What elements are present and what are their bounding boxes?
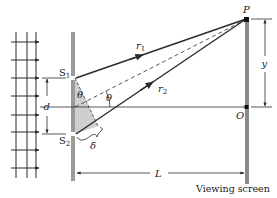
slit-s2-label: S2 [59, 135, 70, 148]
theta-slit-label: θ [77, 89, 83, 100]
rays [76, 19, 246, 134]
ray-r2 [76, 19, 246, 134]
barrier-middle [71, 80, 75, 132]
viewing-screen-caption: Viewing screen [195, 183, 270, 194]
path-difference-label: δ [90, 140, 96, 151]
incident-wavefronts [11, 32, 39, 178]
point-p-label: P [242, 4, 250, 15]
ray-r2-label: r2 [158, 83, 167, 96]
distance-label: L [154, 168, 162, 179]
ray-r1 [76, 19, 246, 78]
slit-s2-subscript: 2 [66, 140, 70, 148]
slit-s1-subscript: 1 [66, 72, 70, 80]
barrier-bottom [71, 136, 75, 181]
double-slit-diagram: d y L S1 S2 r1 r2 θ θ δ P O Viewing scre [0, 0, 277, 198]
ray-r2-arrow-icon [140, 82, 153, 91]
slit-separation-label: d [44, 101, 50, 112]
wave-arrows [11, 42, 39, 168]
path-difference-triangle [75, 78, 98, 134]
viewing-screen [245, 18, 249, 184]
ray-r1-label: r1 [136, 40, 145, 53]
point-p-marker [244, 17, 249, 22]
screen-offset-label: y [261, 58, 268, 69]
point-o-label: O [236, 110, 244, 121]
slit-barrier [71, 32, 75, 181]
theta-center-label: θ [106, 92, 112, 103]
ray-r2-subscript: 2 [163, 88, 167, 96]
ray-r1-arrow-icon [130, 55, 143, 60]
barrier-top [71, 32, 75, 76]
point-o-marker [245, 105, 249, 109]
ray-r1-subscript: 1 [141, 45, 145, 53]
